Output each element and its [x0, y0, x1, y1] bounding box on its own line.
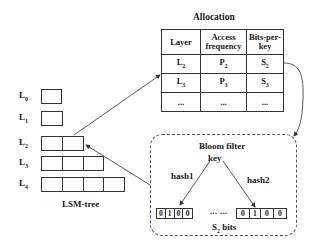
cell-bits: S3 [247, 74, 284, 93]
bit-array-left: 0 1 0 0 [156, 208, 193, 219]
sstable-block [104, 178, 124, 191]
bit-cell: 1 [166, 209, 175, 218]
table-header-row: Layer Accessfrequency Bits-per-key [162, 30, 284, 55]
cell-layer: ... [162, 93, 201, 112]
bloom-filter-title: Bloom filter [199, 141, 245, 151]
sstable-block [42, 90, 61, 103]
bit-cell: 0 [261, 209, 274, 218]
table-row: ... ... ... [162, 93, 284, 112]
allocation-title: Allocation [193, 12, 235, 22]
table-row: L3 P3 S3 [162, 74, 284, 93]
sstable-block [42, 157, 63, 170]
bit-cell: 0 [157, 209, 166, 218]
level-l2 [41, 136, 84, 151]
hash2-label: hash2 [247, 175, 270, 185]
level-label-l1: L1 [19, 112, 33, 124]
sstable-block [63, 157, 83, 170]
bit-ellipsis: ... ... [210, 207, 228, 216]
key-label: key [208, 153, 222, 163]
level-label-l2: L2 [19, 137, 33, 149]
sstable-block [42, 112, 62, 125]
header-layer: Layer [162, 30, 201, 55]
bit-cell: 0 [175, 209, 184, 218]
bit-cell: 1 [250, 209, 262, 218]
cell-layer: L3 [162, 74, 201, 93]
level-l3 [41, 156, 104, 171]
arrow-l2-to-allocation [74, 75, 160, 135]
cell-freq: P3 [201, 74, 247, 93]
cell-freq: ... [201, 93, 247, 112]
allocation-table: Layer Accessfrequency Bits-per-key L2 P2… [161, 29, 284, 112]
sstable-block [84, 178, 104, 191]
sstable-block [42, 178, 63, 191]
cell-freq: P2 [201, 55, 247, 74]
level-label-l4: L4 [19, 178, 33, 190]
cell-bits: S2 [247, 55, 284, 74]
table-row: L2 P2 S2 [162, 55, 284, 74]
cell-bits: ... [247, 93, 284, 112]
bits-size-label: S2 bits [212, 222, 236, 234]
bit-cell: 0 [274, 209, 286, 218]
header-bits-per-key: Bits-per-key [247, 30, 284, 55]
sstable-block [42, 137, 63, 150]
bit-cell: 0 [237, 209, 250, 218]
cell-layer: L2 [162, 55, 201, 74]
sstable-block [63, 178, 84, 191]
sstable-block [63, 137, 83, 150]
lsm-tree-label: LSM-tree [62, 199, 99, 209]
header-access-frequency: Accessfrequency [201, 30, 247, 55]
sstable-block [84, 157, 103, 170]
hash1-label: hash1 [171, 171, 194, 181]
bit-array-right: 0 1 0 0 [236, 208, 287, 219]
level-label-l0: L0 [19, 90, 33, 102]
arrow-s2-to-bloom [284, 63, 303, 136]
level-l4 [41, 177, 125, 192]
bit-cell: 0 [183, 209, 192, 218]
level-l0 [41, 89, 62, 104]
level-label-l3: L3 [19, 157, 33, 169]
level-l1 [41, 111, 63, 126]
